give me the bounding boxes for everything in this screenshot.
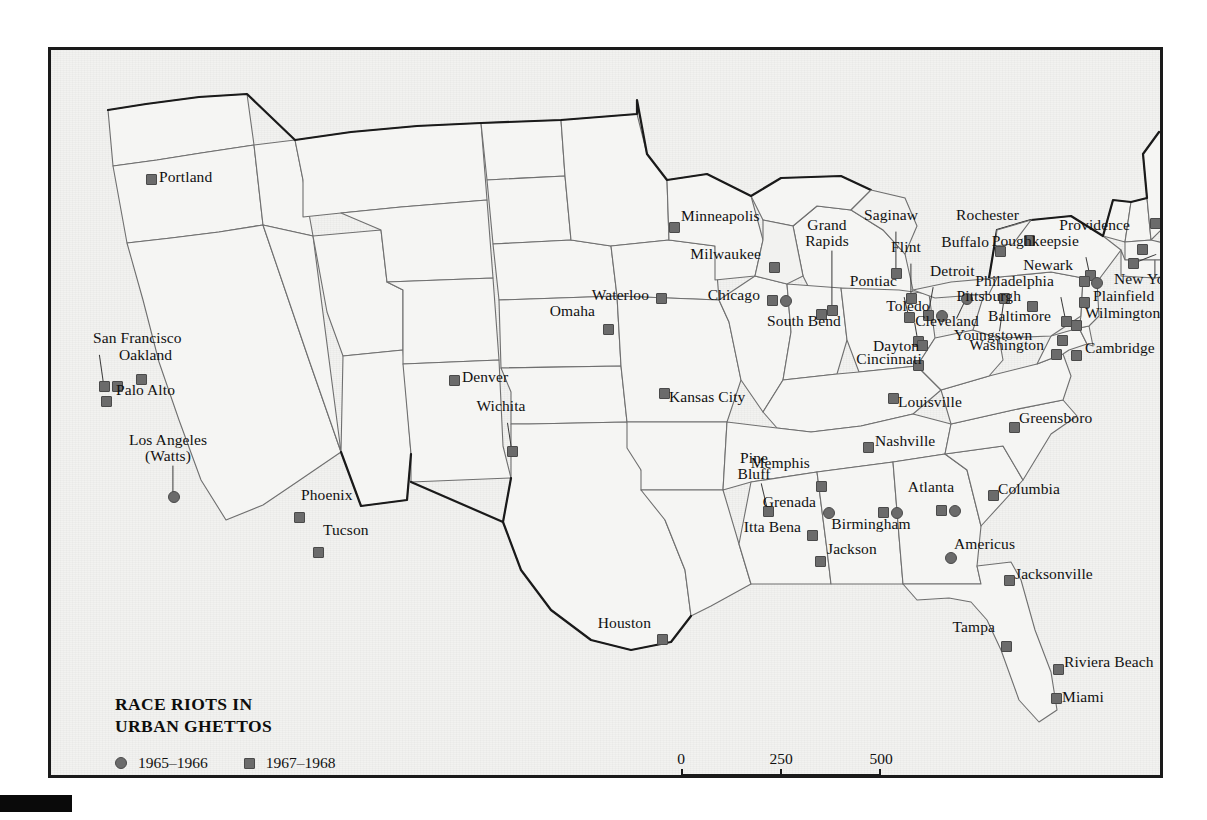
legend-item-label: 1965–1966 (138, 754, 208, 772)
riot-marker-square-washington (1051, 349, 1062, 360)
riot-marker-square-jacksonville (1004, 575, 1015, 586)
city-label-jackson: Jackson (827, 541, 877, 557)
riot-marker-square-grand (827, 305, 838, 316)
legend-circle-swatch-icon (115, 757, 127, 769)
riot-marker-square-new (1128, 258, 1139, 269)
legend-title: RACE RIOTS IN URBAN GHETTOS (115, 694, 372, 737)
riot-marker-square-minneapolis (669, 222, 680, 233)
city-label-denver: Denver (462, 369, 508, 385)
city-label-columbia: Columbia (998, 481, 1060, 497)
riot-marker-square-providence (1137, 244, 1148, 255)
riot-marker-square-itta-bena (807, 530, 818, 541)
city-label-grand: Grand Rapids (805, 217, 849, 249)
city-label-new: New Haven (1161, 227, 1163, 259)
city-label-atlanta: Atlanta (908, 479, 954, 495)
city-label-new-york: New York (1114, 271, 1163, 287)
city-label-tampa: Tampa (953, 619, 995, 635)
riot-marker-circle-chicago (780, 295, 792, 307)
scale-tick-mark-0 (681, 769, 683, 778)
riot-marker-square-baltimore (1057, 335, 1068, 346)
city-label-san-francisco: San Francisco (93, 330, 182, 346)
page-corner-marker (0, 795, 72, 812)
riot-marker-square-newark (1079, 276, 1090, 287)
riot-marker-square-atlanta (936, 505, 947, 516)
map-frame: PortlandSan FranciscoOaklandPalo AltoLos… (48, 47, 1163, 778)
riot-marker-square-nashville (863, 442, 874, 453)
city-label-palo-alto: Palo Alto (116, 382, 175, 398)
legend-item-label: 1967–1968 (266, 754, 336, 772)
riot-marker-square-miami (1051, 693, 1062, 704)
city-label-louisville: Louisville (898, 394, 962, 410)
scale-tick-mark-250 (780, 769, 782, 778)
us-basemap (51, 50, 1163, 778)
city-label-houston: Houston (598, 615, 651, 631)
city-label-miami: Miami (1062, 689, 1104, 705)
riot-marker-square-memphis (816, 481, 827, 492)
city-label-greensboro: Greensboro (1019, 410, 1092, 426)
city-label-birmingham: Birmingham (831, 516, 910, 532)
city-label-newark: Newark (1023, 257, 1073, 273)
riot-marker-square-tucson (313, 547, 324, 558)
riot-marker-square-wilmington (1071, 320, 1082, 331)
legend-items: 1965–19661967–1968 (115, 754, 372, 772)
riot-marker-square-wichita (507, 446, 518, 457)
riot-marker-square-boston (1150, 218, 1161, 229)
city-label-kansas-city: Kansas City (669, 389, 745, 405)
riot-marker-square-omaha (603, 324, 614, 335)
scale-tick-label-0: 0 (677, 750, 685, 768)
city-label-saginaw: Saginaw (864, 207, 918, 223)
city-label-cincinnati: Cincinnati (856, 351, 922, 367)
city-label-omaha: Omaha (550, 303, 595, 319)
city-label-itta-bena: Itta Bena (744, 519, 801, 535)
scale-tick-mark-500 (879, 769, 881, 778)
city-label-pine: Pine Bluff (738, 450, 771, 482)
city-label-baltimore: Baltimore (988, 308, 1051, 324)
city-label-wilmington: Wilmington (1085, 305, 1160, 321)
riot-marker-square-palo-alto (101, 396, 112, 407)
riot-marker-square-jackson (815, 556, 826, 567)
legend-item-1967-1968: 1967–1968 (244, 754, 336, 772)
scale-tick-label-500: 500 (869, 750, 892, 768)
riot-marker-square-waterloo (656, 293, 667, 304)
city-label-americus: Americus (954, 536, 1015, 552)
riot-marker-square-cambridge (1071, 350, 1082, 361)
city-label-los-angeles: Los Angeles (Watts) (129, 432, 207, 464)
riot-marker-circle-los-angeles (168, 491, 180, 503)
city-label-riviera-beach: Riviera Beach (1064, 654, 1154, 670)
city-label-poughkeepsie: Poughkeepsie (992, 233, 1079, 249)
riot-marker-circle-americus (945, 552, 957, 564)
riot-marker-square-san-francisco (99, 381, 110, 392)
city-label-pittsburgh: Pittsburgh (957, 288, 1021, 304)
city-label-minneapolis: Minneapolis (681, 208, 760, 224)
city-label-detroit: Detroit (930, 263, 975, 279)
city-label-jacksonville: Jacksonville (1015, 566, 1093, 582)
city-label-cambridge: Cambridge (1085, 340, 1155, 356)
scale-bar: 0 250 500 Miles (681, 750, 881, 778)
city-label-washington: Washington (969, 337, 1044, 353)
city-label-wichita: Wichita (476, 398, 525, 414)
city-label-phoenix: Phoenix (301, 487, 353, 503)
city-label-portland: Portland (159, 169, 212, 185)
city-label-oakland: Oakland (119, 347, 172, 363)
city-label-tucson: Tucson (323, 522, 369, 538)
legend-item-1965-1966: 1965–1966 (115, 754, 208, 772)
leader-line-grand (831, 251, 832, 311)
city-label-rochester: Rochester (956, 207, 1019, 223)
legend-square-swatch-icon (244, 758, 255, 769)
riot-marker-square-riviera-beach (1053, 664, 1064, 675)
map-legend: RACE RIOTS IN URBAN GHETTOS 1965–1966196… (115, 694, 372, 772)
city-label-milwaukee: Milwaukee (690, 246, 761, 262)
city-label-plainfield: Plainfield (1093, 288, 1154, 304)
riot-marker-square-phoenix (294, 512, 305, 523)
scale-tick-label-250: 250 (769, 750, 792, 768)
riot-marker-circle-atlanta (949, 505, 961, 517)
riot-marker-square-houston (657, 634, 668, 645)
city-label-boston: Boston (1161, 198, 1163, 214)
city-label-pontiac: Pontiac (850, 273, 897, 289)
scale-bar-line-group (681, 769, 881, 778)
riot-marker-square-chicago (767, 295, 778, 306)
scale-tick-labels: 0 250 500 (681, 750, 881, 769)
riot-marker-square-tampa (1001, 641, 1012, 652)
riot-marker-square-denver (449, 375, 460, 386)
city-label-nashville: Nashville (875, 433, 935, 449)
